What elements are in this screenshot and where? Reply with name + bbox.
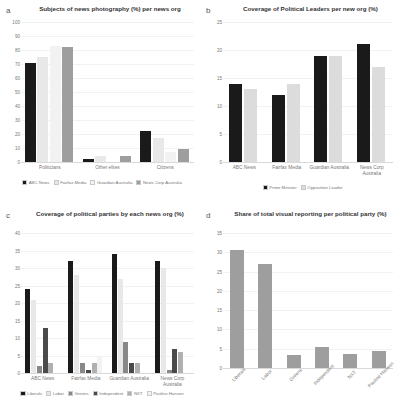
bar[interactable] bbox=[74, 275, 79, 373]
bar[interactable] bbox=[343, 354, 357, 368]
bar[interactable] bbox=[329, 56, 342, 162]
bar[interactable] bbox=[120, 156, 131, 162]
legend-swatch bbox=[46, 391, 51, 396]
bar[interactable] bbox=[25, 289, 30, 373]
bar[interactable] bbox=[118, 279, 123, 374]
x-axis-line bbox=[223, 368, 393, 369]
bar[interactable] bbox=[229, 84, 242, 162]
legend-item[interactable]: News Corp Australia bbox=[136, 180, 182, 185]
panel-b-plot: 0510152025 bbox=[208, 22, 393, 162]
legend-item[interactable]: Pauline Hanson bbox=[147, 391, 184, 396]
bar[interactable] bbox=[153, 138, 164, 162]
bar[interactable] bbox=[92, 363, 97, 374]
x-axis-label: ABC News bbox=[223, 165, 266, 177]
legend-item[interactable]: ABC News bbox=[22, 180, 49, 185]
panel-b-legend: Prime MinisterOpposition Leader bbox=[208, 185, 397, 190]
bar[interactable] bbox=[95, 156, 106, 162]
bar-group bbox=[21, 233, 64, 373]
bar[interactable] bbox=[31, 300, 36, 374]
legend-item[interactable]: Independent bbox=[93, 391, 124, 396]
bar[interactable] bbox=[68, 261, 73, 373]
bars-container bbox=[21, 233, 194, 373]
panel-a-legend: ABC NewsFairfax MediaGuardian AustraliaN… bbox=[8, 180, 196, 185]
legend-item[interactable]: Guardian Australia bbox=[90, 180, 132, 185]
bar[interactable] bbox=[230, 250, 244, 368]
legend-swatch bbox=[136, 180, 141, 185]
x-axis-line bbox=[21, 373, 194, 374]
bar[interactable] bbox=[112, 254, 117, 373]
bar[interactable] bbox=[155, 261, 160, 373]
bar[interactable] bbox=[287, 355, 301, 369]
legend-swatch bbox=[147, 391, 152, 396]
bar[interactable] bbox=[48, 363, 53, 374]
bars-container bbox=[223, 22, 393, 162]
bar[interactable] bbox=[178, 149, 189, 162]
bar-group bbox=[266, 22, 309, 162]
bar[interactable] bbox=[83, 159, 94, 162]
bar[interactable] bbox=[140, 131, 151, 162]
legend-item[interactable]: NXT bbox=[127, 391, 142, 396]
panel-d-title: Share of total visual reporting per poli… bbox=[226, 210, 395, 218]
bar-group bbox=[280, 233, 308, 368]
bar[interactable] bbox=[43, 328, 48, 374]
x-axis-label: Guardian Australia bbox=[108, 376, 151, 388]
y-axis-tick: 5 bbox=[6, 353, 20, 358]
legend-item[interactable]: Labor bbox=[46, 391, 64, 396]
bar[interactable] bbox=[50, 46, 61, 162]
legend-item[interactable]: Opposition Leader bbox=[301, 185, 343, 190]
bar[interactable] bbox=[315, 347, 329, 368]
legend-swatch bbox=[127, 391, 132, 396]
panel-b-title: Coverage of Political Leaders per new or… bbox=[226, 5, 395, 13]
bar-group bbox=[336, 233, 364, 368]
x-axis-label: Fairfax Media bbox=[266, 165, 309, 177]
bar[interactable] bbox=[372, 67, 385, 162]
bar[interactable] bbox=[178, 352, 183, 373]
bar[interactable] bbox=[97, 356, 102, 374]
bar[interactable] bbox=[62, 47, 73, 162]
y-axis-tick: 25 bbox=[6, 283, 20, 288]
x-axis-label-wrap: Pauline Hanson bbox=[365, 371, 393, 411]
legend-item[interactable]: Liberals bbox=[20, 391, 42, 396]
y-axis-tick: 30 bbox=[6, 266, 20, 271]
bar[interactable] bbox=[357, 44, 370, 162]
y-axis-tick: 10 bbox=[208, 104, 222, 109]
bar[interactable] bbox=[25, 63, 36, 162]
bar-group bbox=[308, 22, 351, 162]
bar[interactable] bbox=[135, 363, 140, 374]
legend-item[interactable]: Fairfax Media bbox=[54, 180, 87, 185]
bar[interactable] bbox=[272, 95, 285, 162]
x-axis-label: Politicians bbox=[21, 165, 79, 171]
panel-d: d Share of total visual reporting per po… bbox=[200, 205, 401, 415]
bar[interactable] bbox=[37, 366, 42, 373]
bar[interactable] bbox=[86, 370, 91, 374]
legend-swatch bbox=[54, 180, 59, 185]
bar[interactable] bbox=[161, 268, 166, 373]
bar[interactable] bbox=[167, 370, 172, 374]
panel-letter-a: a bbox=[6, 6, 10, 15]
bar[interactable] bbox=[244, 89, 257, 162]
bar[interactable] bbox=[123, 342, 128, 374]
bar[interactable] bbox=[129, 363, 134, 374]
panel-c-plot: 0510152025303540 bbox=[6, 233, 194, 373]
legend-swatch bbox=[22, 180, 27, 185]
bar[interactable] bbox=[165, 152, 176, 162]
panel-d-plot: 05101520253035 bbox=[208, 233, 393, 368]
bar[interactable] bbox=[372, 351, 386, 368]
panel-letter-d: d bbox=[206, 211, 210, 220]
bar-group bbox=[251, 233, 279, 368]
y-axis-tick: 0 bbox=[208, 160, 222, 165]
bar[interactable] bbox=[37, 57, 48, 162]
bar[interactable] bbox=[172, 349, 177, 374]
bar[interactable] bbox=[287, 84, 300, 162]
y-axis-tick: 0 bbox=[6, 160, 20, 165]
bar[interactable] bbox=[314, 56, 327, 162]
bar[interactable] bbox=[80, 363, 85, 374]
y-axis-tick: 35 bbox=[208, 231, 222, 236]
legend-item[interactable]: Greens bbox=[68, 391, 89, 396]
y-axis-tick: 60 bbox=[6, 76, 20, 81]
bar[interactable] bbox=[258, 264, 272, 368]
figure-grid: a Subjects of news photography (%) per n… bbox=[0, 0, 401, 415]
panel-a: a Subjects of news photography (%) per n… bbox=[0, 0, 200, 205]
panel-c-xlabels: ABC NewsFairfax MediaGuardian AustraliaN… bbox=[21, 376, 194, 388]
legend-item[interactable]: Prime Minister bbox=[263, 185, 297, 190]
